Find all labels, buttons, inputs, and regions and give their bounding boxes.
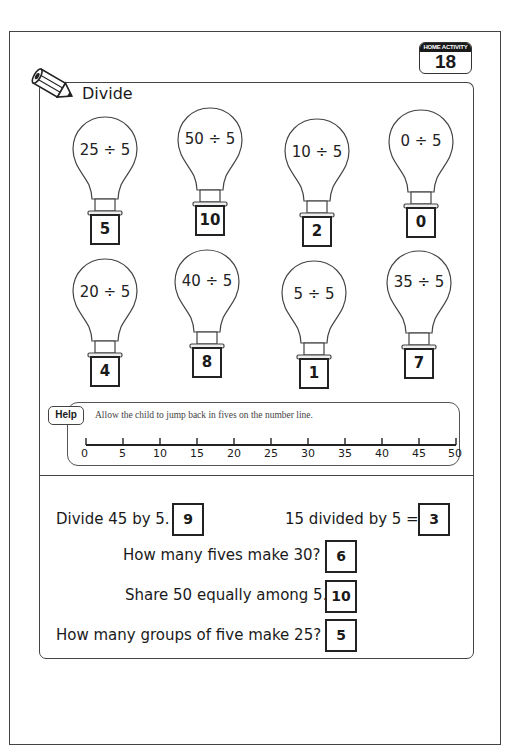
answer-box[interactable]: 5 bbox=[325, 619, 357, 652]
tick-label: 35 bbox=[338, 447, 352, 460]
bulb-7: 5 ÷ 5 1 bbox=[279, 259, 349, 394]
bulb-3: 10 ÷ 5 2 bbox=[282, 117, 352, 252]
tick-label: 40 bbox=[375, 447, 389, 460]
bulb-answer[interactable]: 2 bbox=[302, 216, 332, 247]
bulb-answer[interactable]: 4 bbox=[90, 356, 120, 387]
activity-title: Divide bbox=[82, 84, 133, 103]
bulb-4: 0 ÷ 5 0 bbox=[386, 108, 456, 243]
bulb-expression: 25 ÷ 5 bbox=[70, 141, 140, 159]
tick-label: 50 bbox=[448, 447, 462, 460]
tick-label: 10 bbox=[153, 447, 167, 460]
tick-label: 0 bbox=[81, 447, 88, 460]
bulb-1: 25 ÷ 5 5 bbox=[70, 115, 140, 250]
bulb-6: 40 ÷ 5 8 bbox=[172, 248, 242, 383]
answer-box[interactable]: 6 bbox=[325, 540, 357, 573]
badge-number: 18 bbox=[420, 52, 471, 72]
bulb-expression: 20 ÷ 5 bbox=[70, 283, 140, 301]
tick-label: 5 bbox=[119, 447, 126, 460]
bulb-answer[interactable]: 8 bbox=[192, 347, 222, 378]
help-tag: Help bbox=[48, 406, 84, 425]
answer-box[interactable]: 3 bbox=[418, 503, 450, 536]
bulb-expression: 0 ÷ 5 bbox=[386, 132, 456, 150]
help-text: Allow the child to jump back in fives on… bbox=[95, 410, 313, 420]
bulb-answer[interactable]: 1 bbox=[299, 358, 329, 389]
question-text: 15 divided by 5 = bbox=[285, 510, 419, 528]
bulb-expression: 50 ÷ 5 bbox=[175, 130, 245, 148]
bulb-answer[interactable]: 5 bbox=[90, 214, 120, 245]
bulb-answer[interactable]: 0 bbox=[406, 207, 436, 238]
bulb-expression: 40 ÷ 5 bbox=[172, 272, 242, 290]
tick-label: 20 bbox=[227, 447, 241, 460]
home-activity-badge: HOME ACTIVITY 18 bbox=[419, 42, 472, 74]
question-text: How many fives make 30? bbox=[123, 546, 321, 564]
answer-box[interactable]: 10 bbox=[325, 580, 357, 613]
question-text: Divide 45 by 5. bbox=[56, 510, 170, 528]
bulb-2: 50 ÷ 5 10 bbox=[175, 106, 245, 241]
bulb-expression: 35 ÷ 5 bbox=[384, 273, 454, 291]
bulb-5: 20 ÷ 5 4 bbox=[70, 257, 140, 392]
tick-label: 15 bbox=[190, 447, 204, 460]
tick-label: 30 bbox=[301, 447, 315, 460]
bulb-8: 35 ÷ 5 7 bbox=[384, 249, 454, 384]
answer-box[interactable]: 9 bbox=[172, 503, 204, 536]
bulb-answer[interactable]: 7 bbox=[404, 348, 434, 379]
bulb-answer[interactable]: 10 bbox=[195, 205, 225, 236]
question-text: How many groups of five make 25? bbox=[56, 626, 321, 644]
bulb-expression: 10 ÷ 5 bbox=[282, 143, 352, 161]
tick-label: 45 bbox=[412, 447, 426, 460]
bulb-expression: 5 ÷ 5 bbox=[279, 285, 349, 303]
question-text: Share 50 equally among 5. bbox=[125, 586, 327, 604]
number-line: 0 5 10 15 20 25 30 35 40 45 50 bbox=[84, 435, 460, 465]
tick-label: 25 bbox=[264, 447, 278, 460]
pencil-icon bbox=[30, 68, 78, 106]
